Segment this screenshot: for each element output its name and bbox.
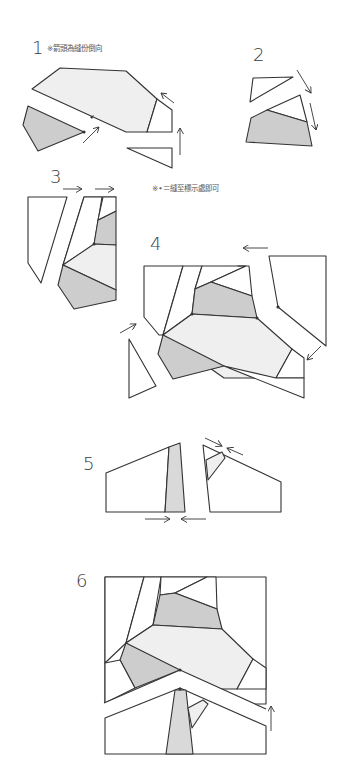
step-1-small-triangle [127,148,172,168]
arrow-icon [161,93,174,103]
step-2-number: 2 [253,44,264,65]
arrow-icon [83,127,99,143]
arrow-icon [120,324,136,333]
arrow-icon [227,448,243,455]
step-4-number: 4 [150,233,161,254]
stitch-dot [256,317,259,320]
step-1: 1 ※箭頭為縫份倒向 [23,37,180,168]
step-5-number: 5 [83,453,94,474]
step-2-triangle [250,77,293,102]
stitch-dot [191,313,194,316]
stitch-dot [276,305,279,308]
stitch-dot [179,669,182,672]
step-4-left-triangle [129,339,156,398]
step-3-note: ※•＝縫至標示處即可 [152,183,220,193]
arrow-icon [310,103,316,130]
arrow-icon [297,70,311,93]
arrow-icon [307,346,321,360]
step-5: 5 [83,438,281,519]
step-1-stitch-dot [82,130,85,133]
arrow-icon [205,438,222,446]
stitch-dot [93,243,96,246]
step-2: 2 [246,44,316,146]
step-6: 6 [76,570,271,754]
step-4-right-piece [269,256,326,346]
step-3-left-strip [28,197,67,283]
step-1-dark-piece [23,106,84,151]
stitch-dot [179,688,182,691]
step-6-number: 6 [76,570,87,591]
step-4: 4 [120,233,326,398]
step-1-number: 1 [32,37,43,58]
step-1-note: ※箭頭為縫份倒向 [47,43,102,53]
piecing-diagram: 1 ※箭頭為縫份倒向 2 3 ※•＝縫至標示處即可 [0,0,345,762]
step-5-left-white [106,447,169,512]
step-3-number: 3 [50,166,61,187]
